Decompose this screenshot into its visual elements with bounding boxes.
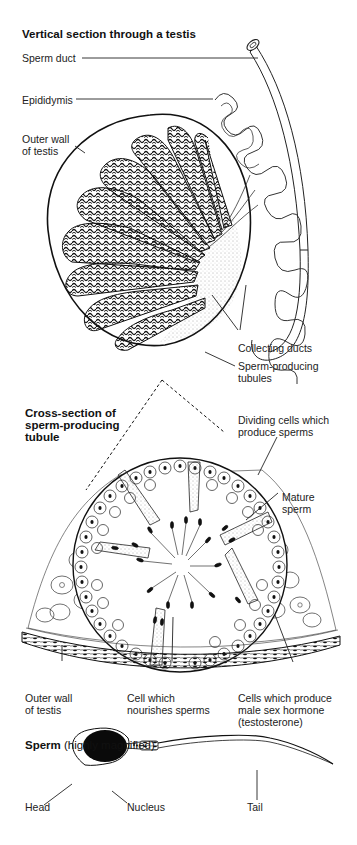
label-hormone-1: Cells which produce xyxy=(238,692,332,704)
label-mature-1: Mature xyxy=(282,491,315,503)
label-hormone-3: (testosterone) xyxy=(238,716,303,728)
label-nucleus: Nucleus xyxy=(127,801,165,813)
label-nourish-1: Cell which xyxy=(127,692,175,704)
sperm-subtitle: (highly magnified) xyxy=(64,739,155,751)
label-hormone-2: male sex hormone xyxy=(238,704,324,716)
label-epididymis: Epididymis xyxy=(22,94,73,106)
section-title-cross-section-3: tubule xyxy=(25,431,60,444)
label-tubules-1: Sperm-producing xyxy=(238,360,319,372)
label-outer-wall-3: Outer wall xyxy=(25,692,72,704)
label-tubules-2: tubules xyxy=(238,372,272,384)
label-outer-wall-2: of testis xyxy=(22,145,58,157)
leader-lines-3 xyxy=(44,770,257,805)
label-sperm-duct: Sperm duct xyxy=(22,52,76,64)
label-head: Head xyxy=(25,801,50,813)
label-dividing-1: Dividing cells which xyxy=(238,414,329,426)
label-dividing-2: produce sperms xyxy=(238,426,313,438)
label-collecting-ducts: Collecting ducts xyxy=(238,342,312,354)
section-title-sperm: Sperm (highly magnified) xyxy=(25,739,155,752)
label-tail: Tail xyxy=(247,801,263,813)
label-mature-2: sperm xyxy=(282,503,311,515)
section-title-testis: Vertical section through a testis xyxy=(22,28,196,41)
sperm-title: Sperm xyxy=(25,739,61,751)
testis-diagram xyxy=(47,37,308,384)
label-outer-wall-4: of testis xyxy=(25,704,61,716)
label-nourish-2: nourishes sperms xyxy=(127,704,210,716)
label-outer-wall-1: Outer wall xyxy=(22,133,69,145)
